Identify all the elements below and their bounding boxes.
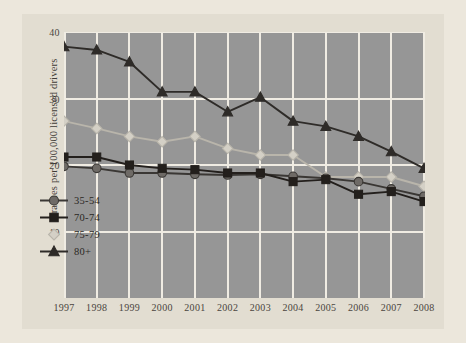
data-point-marker bbox=[191, 166, 199, 174]
data-point-marker bbox=[224, 169, 232, 177]
data-point-marker bbox=[289, 178, 297, 186]
data-point-marker bbox=[64, 116, 69, 126]
legend-label: 75-79 bbox=[72, 229, 100, 240]
data-point-marker bbox=[92, 164, 101, 173]
data-point-marker bbox=[64, 153, 68, 161]
data-point-marker bbox=[222, 143, 232, 153]
data-point-marker bbox=[354, 177, 363, 186]
data-point-marker bbox=[125, 161, 133, 169]
data-point-marker bbox=[49, 196, 58, 205]
chart-figure: Crashes per 100,000 licensed drivers 102… bbox=[22, 14, 444, 329]
data-point-marker bbox=[288, 116, 298, 125]
data-point-marker bbox=[256, 169, 264, 177]
y-tick-label: 30 bbox=[20, 93, 60, 104]
data-point-marker bbox=[50, 213, 58, 221]
diamond-marker-icon bbox=[38, 227, 72, 242]
legend-item-35-54[interactable]: 35-54 bbox=[38, 192, 143, 209]
y-tick-label: 20 bbox=[20, 160, 60, 171]
data-point-marker bbox=[124, 131, 134, 141]
data-point-marker bbox=[49, 229, 60, 240]
y-tick-label: 40 bbox=[20, 27, 60, 38]
data-point-marker bbox=[157, 137, 167, 147]
data-point-marker bbox=[64, 41, 69, 50]
chart-legend: 35-5470-7475-7980+ bbox=[38, 192, 143, 260]
square-marker-icon bbox=[38, 210, 72, 225]
data-point-marker bbox=[387, 188, 395, 196]
data-point-marker bbox=[355, 190, 363, 198]
data-point-marker bbox=[255, 92, 265, 101]
legend-label: 35-54 bbox=[72, 195, 100, 206]
data-point-marker bbox=[64, 162, 68, 171]
data-point-marker bbox=[92, 123, 102, 133]
data-point-marker bbox=[190, 131, 200, 141]
legend-item-80+[interactable]: 80+ bbox=[38, 243, 143, 260]
data-point-marker bbox=[288, 150, 298, 160]
data-point-marker bbox=[158, 164, 166, 172]
legend-label: 70-74 bbox=[72, 212, 100, 223]
legend-item-70-74[interactable]: 70-74 bbox=[38, 209, 143, 226]
data-point-marker bbox=[255, 150, 265, 160]
data-point-marker bbox=[420, 198, 425, 206]
data-point-marker bbox=[93, 153, 101, 161]
series-75-79 bbox=[64, 116, 425, 192]
data-point-marker bbox=[322, 176, 330, 184]
series-line bbox=[64, 121, 424, 186]
x-tick-label: 2008 bbox=[401, 302, 447, 313]
legend-item-75-79[interactable]: 75-79 bbox=[38, 226, 143, 243]
legend-label: 80+ bbox=[72, 246, 91, 257]
data-point-marker bbox=[125, 169, 134, 178]
series-line bbox=[64, 47, 424, 169]
data-point-marker bbox=[386, 172, 396, 182]
triangle-marker-icon bbox=[38, 244, 72, 259]
x-axis-ticks: 1997199819992000200120022003200420052006… bbox=[64, 302, 425, 320]
data-point-marker bbox=[419, 181, 425, 191]
data-point-marker bbox=[419, 163, 425, 172]
circle-marker-icon bbox=[38, 193, 72, 208]
